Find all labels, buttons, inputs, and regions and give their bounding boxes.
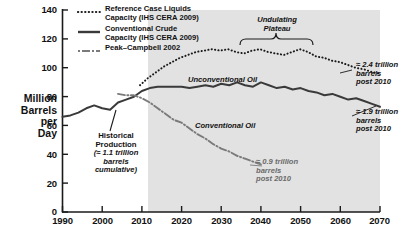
x-tick-label-2000: 2000 bbox=[82, 215, 123, 226]
legend-label-conventional-crude-l2: Capacity (IHS CERA 2009) bbox=[105, 34, 235, 43]
historical-leader-line bbox=[110, 110, 116, 131]
x-tick-label-2040: 2040 bbox=[240, 215, 281, 226]
y-tick-label-40: 40 bbox=[31, 149, 57, 160]
annotation-peak-campbell-total: ≈ 0.9 trillion barrels post 2010 bbox=[256, 158, 318, 184]
legend-item-conventional-crude[interactable]: Conventional Crude Capacity (IHS CERA 20… bbox=[77, 25, 237, 45]
y-tick-label-80: 80 bbox=[31, 91, 57, 102]
x-tick-label-2070: 2070 bbox=[359, 215, 400, 226]
legend-label-reference-case-l2: Capacity (IHS CERA 2009) bbox=[105, 14, 235, 23]
annotation-undulating-plateau-l2: Plateau bbox=[237, 25, 317, 34]
legend-item-peak-campbell[interactable]: Peak–Campbell 2002 bbox=[77, 45, 237, 59]
x-tick-label-2030: 2030 bbox=[201, 215, 242, 226]
annotation-undulating-plateau: Undulating Plateau bbox=[237, 16, 317, 33]
annotation-historical-l1: Historical bbox=[77, 131, 155, 140]
annotation-conventional-total: ≈ 1.9 trillion barrels post 2010 bbox=[356, 108, 412, 134]
y-tick-label-100: 100 bbox=[31, 62, 57, 73]
chart-root: Million Barrels per Day 140 120 100 80 6… bbox=[0, 0, 412, 247]
x-tick-label-2010: 2010 bbox=[121, 215, 162, 226]
y-tick-label-20: 20 bbox=[31, 178, 57, 189]
x-tick-label-1990: 1990 bbox=[42, 215, 83, 226]
x-tick-label-2060: 2060 bbox=[320, 215, 361, 226]
x-tick-label-2050: 2050 bbox=[280, 215, 321, 226]
annotation-peak-l3: post 2010 bbox=[256, 175, 318, 184]
y-tick-label-120: 120 bbox=[31, 33, 57, 44]
legend-item-reference-case[interactable]: Reference Case Liquids Capacity (IHS CER… bbox=[77, 5, 237, 25]
annotation-conv-l3: post 2010 bbox=[356, 125, 412, 134]
annotation-unconventional-oil: Unconventional Oil bbox=[188, 76, 308, 85]
chart-legend: Reference Case Liquids Capacity (IHS CER… bbox=[77, 5, 237, 59]
dashdot-line-icon bbox=[77, 48, 101, 54]
dotted-line-icon bbox=[77, 9, 101, 15]
annotation-historical-production: Historical Production (≈ 1.1 trillion ba… bbox=[77, 131, 155, 175]
y-tick-label-60: 60 bbox=[31, 120, 57, 131]
solid-line-icon bbox=[77, 29, 101, 35]
x-tick-label-2020: 2020 bbox=[161, 215, 202, 226]
annotation-historical-l5: cumulative) bbox=[77, 166, 155, 175]
y-tick-label-140: 140 bbox=[31, 4, 57, 15]
annotation-reference-case-total: ≈ 2.4 trillion barrels post 2010 bbox=[356, 61, 412, 87]
annotation-ref-l3: post 2010 bbox=[356, 78, 412, 87]
annotation-conventional-oil: Conventional Oil bbox=[195, 122, 315, 131]
legend-label-peak-campbell-l1: Peak–Campbell 2002 bbox=[105, 44, 235, 53]
